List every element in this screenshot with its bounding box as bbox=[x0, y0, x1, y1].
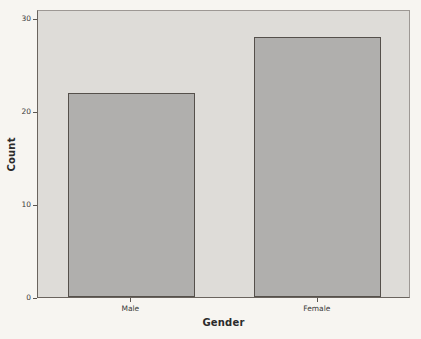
plot-area bbox=[37, 10, 410, 298]
y-axis-title: Count bbox=[0, 0, 22, 308]
y-axis-tick: 20 bbox=[14, 112, 37, 113]
bar-male bbox=[68, 93, 195, 297]
y-axis-tick-label: 30 bbox=[21, 13, 31, 24]
x-axis-tick-mark bbox=[317, 298, 318, 302]
x-axis-category-label: Female bbox=[272, 304, 362, 313]
x-axis-category-label: Male bbox=[85, 304, 175, 313]
bar-chart: Count 0102030 MaleFemale Gender bbox=[0, 0, 421, 339]
y-axis-tick-label: 0 bbox=[26, 292, 31, 303]
y-axis-tick: 30 bbox=[14, 19, 37, 20]
x-axis-title: Gender bbox=[37, 317, 410, 328]
y-axis-tick-mark bbox=[33, 298, 37, 299]
y-axis-title-text: Count bbox=[6, 137, 17, 171]
y-axis-tick-label: 10 bbox=[21, 199, 31, 210]
x-axis-tick-mark bbox=[130, 298, 131, 302]
y-axis-tick: 0 bbox=[14, 298, 37, 299]
y-axis-tick-label: 20 bbox=[21, 106, 31, 117]
bars-layer bbox=[38, 11, 409, 297]
bar-female bbox=[254, 37, 381, 297]
y-axis-tick: 10 bbox=[14, 205, 37, 206]
